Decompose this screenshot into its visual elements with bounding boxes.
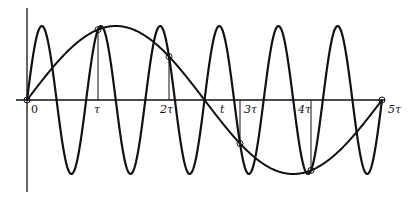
tick-label-5tau: 5τ [388,103,402,116]
axis-variable-label: t [220,103,225,116]
origin-label: 0 [31,103,38,116]
aliasing-diagram: 0 τ 2τ t 3τ 4τ 5τ [0,0,408,200]
tick-label-tau: τ [94,103,101,116]
tick-label-3tau: 3τ [244,103,258,116]
tick-label-2tau: 2τ [159,103,174,116]
tick-label-4tau: 4τ [297,103,312,116]
